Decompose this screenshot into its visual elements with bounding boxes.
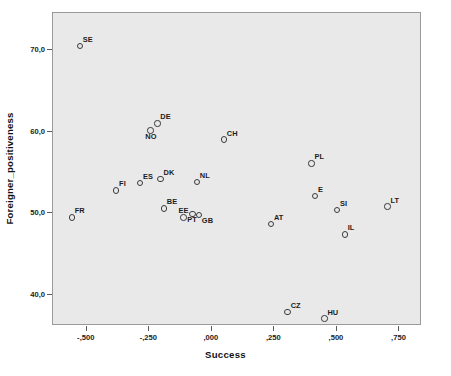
point-label: PL — [314, 153, 324, 161]
point-label: CZ — [291, 302, 301, 310]
y-tick-label: 70,0 — [14, 44, 45, 53]
point-label: FR — [75, 207, 85, 215]
point-label: HU — [327, 309, 338, 317]
point-label: ES — [143, 173, 153, 181]
x-tick-label: ,500 — [329, 333, 344, 342]
x-tick-mark — [148, 326, 149, 331]
x-tick-mark — [273, 326, 274, 331]
scatter-plot-figure: Foreigner_positiveness 40,050,060,070,0 … — [0, 0, 451, 376]
point-label: FI — [119, 180, 126, 188]
x-tick-mark — [86, 326, 87, 331]
point-label: DE — [160, 113, 170, 121]
point-label: IL — [348, 224, 355, 232]
y-tick-label: 40,0 — [14, 289, 45, 298]
x-tick-label: ,250 — [266, 333, 281, 342]
y-axis-title: Foreigner_positiveness — [2, 12, 16, 325]
x-tick-label: ,000 — [203, 333, 218, 342]
point-label: AT — [274, 214, 284, 222]
x-tick-label: -,250 — [140, 333, 157, 342]
point-label: BE — [167, 198, 177, 206]
plot-area: SEDENOCHPLDKNLESFIELTBESIFREEGBPTATILCZH… — [52, 12, 421, 325]
point-label: PT — [187, 216, 197, 224]
x-tick-mark — [211, 326, 212, 331]
data-points-layer: SEDENOCHPLDKNLESFIELTBESIFREEGBPTATILCZH… — [53, 13, 420, 324]
point-label: LT — [390, 197, 399, 205]
point-label: SI — [340, 200, 347, 208]
point-label: DK — [164, 169, 175, 177]
point-label: E — [318, 186, 323, 194]
point-label: CH — [227, 130, 238, 138]
point-label: NO — [145, 133, 156, 141]
y-axis-title-text: Foreigner_positiveness — [4, 112, 15, 224]
point-label: NL — [200, 172, 210, 180]
x-tick-label: -,500 — [77, 333, 94, 342]
y-tick-label: 50,0 — [14, 208, 45, 217]
y-tick-label: 60,0 — [14, 126, 45, 135]
x-axis-title: Success — [0, 349, 451, 360]
x-tick-mark — [398, 326, 399, 331]
point-label: SE — [83, 36, 93, 44]
point-label: GB — [202, 217, 213, 225]
x-tick-mark — [336, 326, 337, 331]
x-tick-label: ,750 — [391, 333, 406, 342]
